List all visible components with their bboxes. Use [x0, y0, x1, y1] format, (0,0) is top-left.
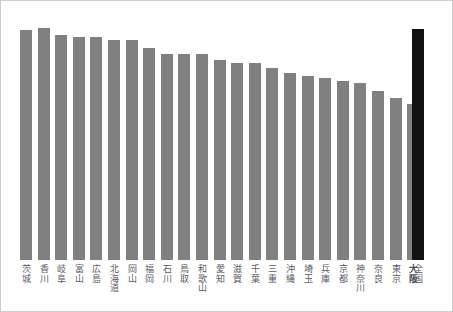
- bar: [284, 1, 296, 260]
- tick-label-9: 鳥取: [177, 265, 191, 284]
- bar-rect: [38, 28, 50, 260]
- tick-label-8: 石川: [160, 265, 174, 284]
- tick-label-char: 山: [125, 275, 139, 285]
- bar: [38, 1, 50, 260]
- bar: [143, 1, 155, 260]
- bar: [302, 1, 314, 260]
- tick-label-char: 縄: [283, 275, 297, 285]
- bar-total: [412, 1, 424, 260]
- bar-rect: [372, 91, 384, 260]
- tick-label-char: 庫: [318, 275, 332, 285]
- tick-label-15: 沖縄: [283, 265, 297, 284]
- bar-rect: [126, 40, 138, 260]
- bar: [319, 1, 331, 260]
- tick-label-2: 岐阜: [54, 265, 68, 284]
- bar-rect: [354, 83, 366, 260]
- tick-label-char: 川: [160, 275, 174, 285]
- tick-label-20: 奈良: [371, 265, 385, 284]
- bar: [126, 1, 138, 260]
- bar-rect: [231, 63, 243, 260]
- bar-rect: [108, 40, 120, 260]
- tick-label-char: 良: [371, 275, 385, 285]
- bar: [73, 1, 85, 260]
- tick-label-1: 香川: [37, 265, 51, 284]
- bar-rect: [284, 73, 296, 260]
- tick-label-char: 重: [265, 275, 279, 285]
- tick-label-char: 城: [19, 275, 33, 285]
- tick-label-11: 愛知: [213, 265, 227, 284]
- bar-rect: [390, 98, 402, 260]
- tick-label-12: 滋賀: [230, 265, 244, 284]
- bar: [266, 1, 278, 260]
- tick-label-16: 埼玉: [301, 265, 315, 284]
- tick-label-13: 千葉: [248, 265, 262, 284]
- bar-rect: [337, 81, 349, 260]
- bar: [249, 1, 261, 260]
- tick-label-5: 北海道: [107, 265, 121, 294]
- tick-label-char: 山: [195, 284, 209, 294]
- bar-rect: [266, 68, 278, 260]
- bar: [214, 1, 226, 260]
- tick-label-18: 京都: [336, 265, 350, 284]
- tick-label-char: 国: [411, 275, 425, 285]
- tick-label-4: 広島: [89, 265, 103, 284]
- x-axis-tick-labels: 茨城香川岐阜富山広島北海道岡山福岡石川鳥取和歌山愛知滋賀千葉三重沖縄埼玉兵庫京都…: [1, 260, 453, 312]
- tick-label-6: 岡山: [125, 265, 139, 284]
- tick-label-char: 川: [353, 284, 367, 294]
- bar: [90, 1, 102, 260]
- bar-rect: [73, 37, 85, 260]
- tick-label-19: 神奈川: [353, 265, 367, 294]
- tick-label-char: 取: [177, 275, 191, 285]
- tick-label-char: 玉: [301, 275, 315, 285]
- bar-rect: [143, 48, 155, 260]
- tick-label-char: 岡: [142, 275, 156, 285]
- bar-rect: [196, 54, 208, 260]
- tick-label-char: 道: [107, 284, 121, 294]
- bar: [196, 1, 208, 260]
- bar: [390, 1, 402, 260]
- bar: [231, 1, 243, 260]
- tick-label-char: 葉: [248, 275, 262, 285]
- bar-rect: [249, 63, 261, 260]
- bar-rect: [178, 54, 190, 260]
- bar: [354, 1, 366, 260]
- tick-label-char: 阜: [54, 275, 68, 285]
- bar-rect: [90, 37, 102, 260]
- bar: [20, 1, 32, 260]
- tick-label-char: 賀: [230, 275, 244, 285]
- tick-label-21: 東京: [389, 265, 403, 284]
- bar-rect: [55, 35, 67, 260]
- bar-rect: [20, 30, 32, 260]
- plot-area: [1, 1, 453, 260]
- bar-chart-figure: 茨城香川岐阜富山広島北海道岡山福岡石川鳥取和歌山愛知滋賀千葉三重沖縄埼玉兵庫京都…: [0, 0, 453, 312]
- tick-label-0: 茨城: [19, 265, 33, 284]
- bar-rect: [161, 54, 173, 260]
- tick-label-char: 知: [213, 275, 227, 285]
- bar: [108, 1, 120, 260]
- tick-label-14: 三重: [265, 265, 279, 284]
- tick-label-char: 島: [89, 275, 103, 285]
- bar: [337, 1, 349, 260]
- bar: [178, 1, 190, 260]
- bar: [372, 1, 384, 260]
- bar-rect: [319, 78, 331, 260]
- bar-rect: [412, 29, 424, 260]
- bar: [55, 1, 67, 260]
- bar-rect: [214, 60, 226, 260]
- tick-label-char: 京: [389, 275, 403, 285]
- tick-label-char: 川: [37, 275, 51, 285]
- tick-label-23: 全国: [411, 265, 425, 284]
- tick-label-17: 兵庫: [318, 265, 332, 284]
- tick-label-10: 和歌山: [195, 265, 209, 294]
- bar-rect: [302, 76, 314, 260]
- tick-label-char: 都: [336, 275, 350, 285]
- bar: [161, 1, 173, 260]
- tick-label-3: 富山: [72, 265, 86, 284]
- tick-label-char: 山: [72, 275, 86, 285]
- tick-label-7: 福岡: [142, 265, 156, 284]
